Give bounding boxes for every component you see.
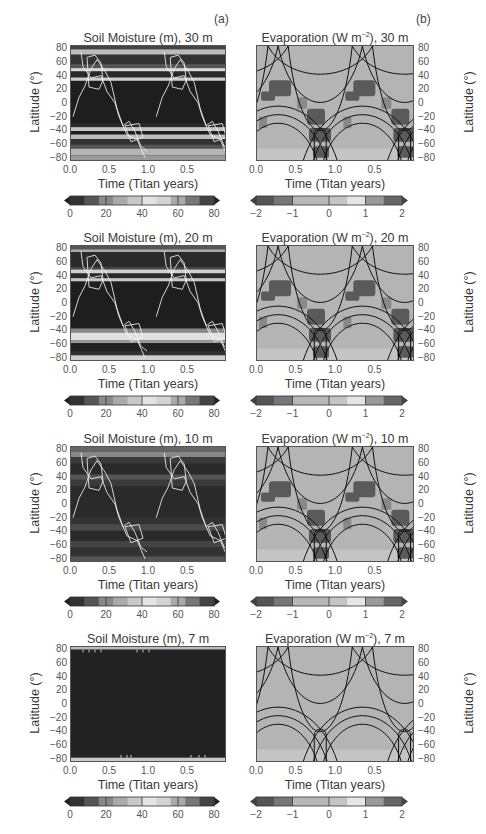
y-tick-label: 0 <box>44 298 67 308</box>
x-tick-label: 0.0 <box>58 164 82 175</box>
x-tick-label: 0.5 <box>363 565 387 576</box>
colorbar-tick-label: 0 <box>58 408 82 419</box>
evaporation-title: Evaporation (W m−2), 30 m <box>244 31 426 45</box>
colorbar-tick-label: 20 <box>94 609 118 620</box>
x-tick-label: 0.5 <box>175 765 199 776</box>
y-tick-label: 60 <box>418 458 429 468</box>
x-axis-label: Time (Titan years) <box>246 177 424 191</box>
evaporation-title-end: ), 10 m <box>370 432 409 446</box>
x-tick-label: 1.0 <box>323 565 347 576</box>
x-tick-label: 0.5 <box>284 765 308 776</box>
colorbar-tick-label: −1 <box>281 609 305 620</box>
colorbar-tick-label: −1 <box>281 408 305 419</box>
x-tick-label: 1.0 <box>136 765 160 776</box>
x-axis-label: Time (Titan years) <box>60 177 236 191</box>
y-tick-label: −80 <box>418 754 435 764</box>
colorbar-tick-label: 60 <box>166 408 190 419</box>
evaporation-title-end: ), 7 m <box>373 632 405 646</box>
colorbar-tick-label: 2 <box>390 208 414 219</box>
colorbar-tick-label: −2 <box>244 609 268 620</box>
x-tick-label: 0.5 <box>284 164 308 175</box>
x-tick-label: 0.0 <box>244 565 268 576</box>
y-tick-label: 20 <box>418 284 429 294</box>
colorbar-tick-label: 0 <box>317 809 341 820</box>
x-tick-label: 0.0 <box>244 765 268 776</box>
y-tick-label: 40 <box>418 71 429 81</box>
soil-moisture-title: Soil Moisture (m), 10 m <box>60 432 236 446</box>
evaporation-title: Evaporation (W m−2), 20 m <box>244 231 426 245</box>
y-tick-label: 20 <box>418 485 429 495</box>
y-tick-label: −40 <box>418 325 435 335</box>
y-tick-label: 20 <box>44 284 67 294</box>
y-tick-label: −80 <box>418 353 435 363</box>
panel-label-a: (a) <box>214 12 229 26</box>
colorbar-tick-label: 20 <box>94 208 118 219</box>
y-axis-label: Latitude (°) <box>28 653 42 753</box>
y-tick-label: −40 <box>418 526 435 536</box>
y-tick-label: −40 <box>418 726 435 736</box>
evaporation-plot <box>256 646 414 762</box>
y-tick-label: 80 <box>418 243 429 253</box>
evaporation-title: Evaporation (W m−2), 10 m <box>244 432 426 446</box>
colorbar-tick-label: 1 <box>354 408 378 419</box>
x-tick-label: 0.5 <box>97 164 121 175</box>
evaporation-title: Evaporation (W m−2), 7 m <box>244 632 426 646</box>
y-axis-label: Latitude (°) <box>462 453 476 553</box>
x-axis-label: Time (Titan years) <box>246 578 424 592</box>
x-tick-label: 0.5 <box>284 565 308 576</box>
evaporation-colorbar <box>250 196 408 205</box>
x-tick-label: 1.0 <box>323 364 347 375</box>
y-tick-label: 60 <box>44 257 67 267</box>
y-tick-label: −80 <box>44 554 67 564</box>
soil-moisture-colorbar <box>64 597 220 606</box>
x-tick-label: 0.5 <box>363 364 387 375</box>
evaporation-plot <box>256 245 414 361</box>
x-tick-label: 1.0 <box>323 765 347 776</box>
y-tick-label: 0 <box>44 98 67 108</box>
colorbar-tick-label: −1 <box>281 208 305 219</box>
colorbar-tick-label: 40 <box>130 208 154 219</box>
evaporation-title-sup: −2 <box>365 632 373 639</box>
y-tick-label: −40 <box>44 325 67 335</box>
evaporation-colorbar <box>250 797 408 806</box>
x-tick-label: 0.5 <box>97 765 121 776</box>
evaporation-title-end: ), 30 m <box>370 31 409 45</box>
colorbar-tick-label: 80 <box>202 408 226 419</box>
y-tick-label: 60 <box>418 257 429 267</box>
colorbar-tick-label: 0 <box>58 609 82 620</box>
y-tick-label: 60 <box>418 658 429 668</box>
y-tick-label: 60 <box>44 658 67 668</box>
colorbar-tick-label: 1 <box>354 208 378 219</box>
evaporation-title-sup: −2 <box>362 231 370 238</box>
soil-moisture-plot <box>70 446 226 562</box>
y-tick-label: 0 <box>44 499 67 509</box>
soil-moisture-plot <box>70 646 226 762</box>
y-tick-label: 20 <box>418 84 429 94</box>
x-tick-label: 0.5 <box>175 364 199 375</box>
colorbar-tick-label: 20 <box>94 408 118 419</box>
soil-moisture-title: Soil Moisture (m), 7 m <box>60 632 236 646</box>
x-axis-label: Time (Titan years) <box>60 578 236 592</box>
x-axis-label: Time (Titan years) <box>60 377 236 391</box>
y-tick-label: 80 <box>44 444 67 454</box>
x-tick-label: 0.5 <box>363 164 387 175</box>
colorbar-tick-label: 40 <box>130 609 154 620</box>
y-tick-label: −60 <box>418 540 435 550</box>
y-tick-label: −20 <box>44 713 67 723</box>
x-tick-label: 0.5 <box>175 164 199 175</box>
evaporation-title-main: Evaporation (W m <box>262 432 362 446</box>
colorbar-tick-label: −2 <box>244 408 268 419</box>
y-tick-label: 20 <box>418 685 429 695</box>
evaporation-title-main: Evaporation (W m <box>265 632 365 646</box>
y-tick-label: 20 <box>44 84 67 94</box>
soil-moisture-plot <box>70 45 226 161</box>
y-tick-label: 60 <box>418 57 429 67</box>
y-tick-label: −60 <box>418 139 435 149</box>
colorbar-tick-label: 0 <box>317 408 341 419</box>
y-tick-label: −20 <box>418 312 435 322</box>
y-tick-label: 40 <box>44 672 67 682</box>
y-tick-label: −20 <box>418 513 435 523</box>
colorbar-tick-label: 40 <box>130 809 154 820</box>
evaporation-colorbar <box>250 597 408 606</box>
y-tick-label: 40 <box>44 71 67 81</box>
